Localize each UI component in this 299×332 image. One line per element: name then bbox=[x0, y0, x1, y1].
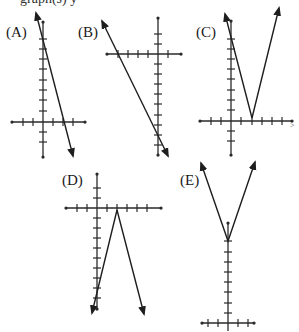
graph-b bbox=[102, 18, 181, 156]
graph-c bbox=[200, 8, 292, 155]
line-a bbox=[36, 13, 73, 156]
graphs-figure bbox=[0, 0, 299, 332]
v-graph-c bbox=[225, 8, 279, 118]
graph-a bbox=[12, 13, 85, 157]
graph-d bbox=[66, 174, 161, 314]
graph-e bbox=[201, 162, 255, 331]
